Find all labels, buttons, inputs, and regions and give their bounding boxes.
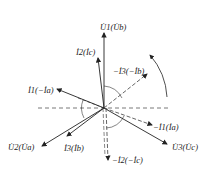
vector-negI3 — [104, 74, 147, 108]
phasor-diagram: U̇1(U̇b) İ2(İc) −İ3(−İb) İ1(−İa) −İ1(İa)… — [0, 0, 210, 181]
label-I1: İ1(−İa) — [27, 85, 54, 95]
label-negI2: −İ2(−İc) — [112, 155, 143, 165]
label-I3: İ3(İb) — [63, 143, 84, 153]
label-U3: U̇3(U̇c) — [172, 142, 198, 152]
angle-arc-left — [82, 100, 84, 118]
vector-U2 — [42, 108, 104, 146]
vector-I3 — [67, 108, 104, 136]
label-negI1: −İ1(İa) — [153, 122, 179, 132]
label-negI3: −İ3(−İb) — [113, 66, 144, 76]
label-U2: U̇2(U̇a) — [8, 142, 35, 152]
label-I2: İ2(İc) — [75, 47, 96, 57]
label-U1: U̇1(U̇b) — [100, 22, 127, 32]
vector-I2 — [98, 58, 104, 108]
vector-negI2-parallel — [103, 108, 105, 156]
vector-I1 — [57, 89, 104, 108]
vector-negI2 — [106, 108, 108, 160]
rotation-arrow-icon — [150, 55, 167, 97]
vector-negI1 — [104, 108, 152, 125]
